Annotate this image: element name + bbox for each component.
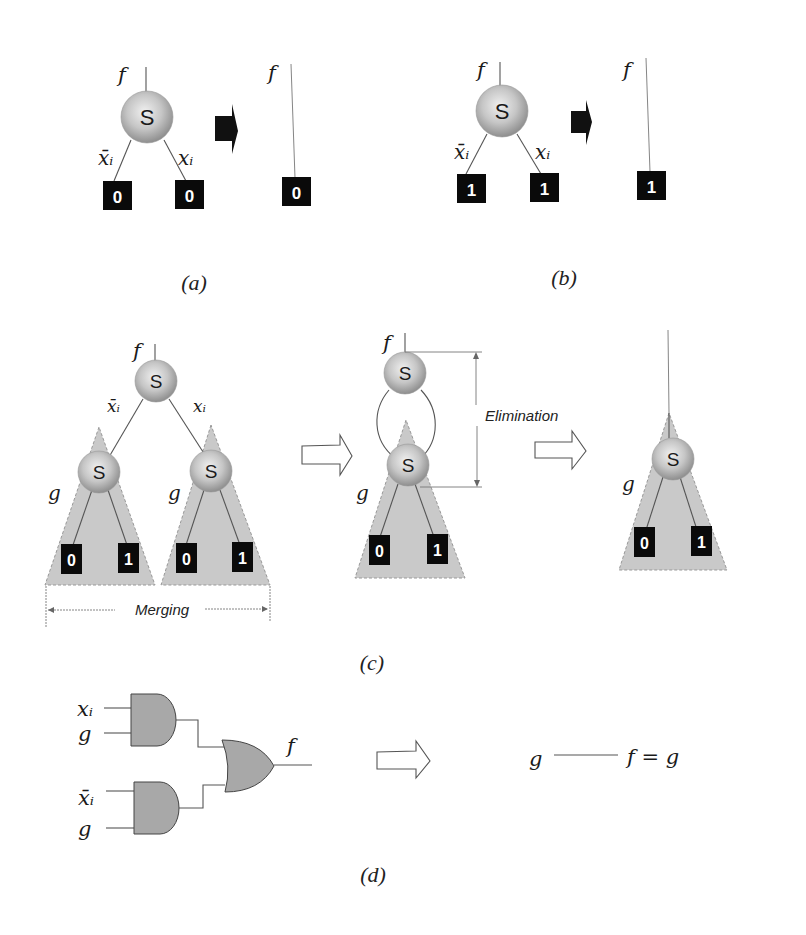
- leaf-right: 0: [175, 180, 204, 209]
- svg-text:0: 0: [185, 187, 194, 206]
- leaf-0: 0: [61, 544, 82, 574]
- hollow-arrow-icon: [302, 435, 352, 475]
- root-label-f: f: [475, 58, 488, 82]
- subtree-node: S: [652, 438, 694, 480]
- panel-d: xᵢ g x̄ᵢ g f g f = g (d): [77, 694, 679, 887]
- root-node: S: [135, 360, 177, 402]
- and-gate-2: [134, 782, 179, 834]
- svg-text:0: 0: [292, 184, 301, 203]
- leaf-1: 1: [691, 526, 712, 556]
- caption-b: (b): [551, 265, 577, 290]
- subtree-node-right: S: [190, 450, 232, 492]
- eliminated-node: S: [384, 352, 426, 394]
- svg-text:0: 0: [640, 535, 649, 552]
- hollow-arrow-icon: [377, 741, 430, 778]
- decision-node: S: [476, 85, 528, 137]
- svg-text:0: 0: [67, 552, 76, 569]
- and-gate-1: [131, 694, 176, 746]
- edge-label-not-xi: x̄ᵢ: [454, 140, 469, 164]
- gate2-input-g: g: [78, 817, 91, 841]
- edge-label-not-xi: x̄ᵢ: [98, 146, 113, 170]
- result-label-f: f: [621, 58, 634, 82]
- svg-text:S: S: [140, 105, 155, 130]
- result-expression: f = g: [625, 745, 679, 769]
- subtree-label-g: g: [356, 481, 369, 505]
- svg-text:0: 0: [375, 543, 384, 560]
- root-label-f: f: [131, 339, 144, 363]
- result-leaf: 1: [637, 171, 666, 200]
- root-label-f: f: [381, 331, 394, 355]
- gate1-input-g: g: [78, 722, 91, 746]
- svg-text:S: S: [150, 371, 163, 392]
- edge-label-xi: xᵢ: [193, 396, 206, 416]
- svg-text:S: S: [93, 462, 106, 483]
- elimination-label: Elimination: [485, 407, 558, 424]
- svg-text:S: S: [667, 449, 680, 470]
- edge-label-xi: xᵢ: [535, 140, 550, 164]
- decision-node: S: [121, 91, 173, 143]
- svg-text:S: S: [205, 461, 218, 482]
- svg-text:1: 1: [467, 181, 476, 200]
- leaf-1: 1: [118, 543, 139, 573]
- edge-label-not-xi: x̄ᵢ: [107, 396, 120, 416]
- svg-text:1: 1: [433, 542, 442, 559]
- leaf-left: 1: [457, 174, 486, 203]
- svg-text:1: 1: [238, 550, 247, 567]
- svg-text:1: 1: [647, 178, 656, 197]
- panel-a: f S x̄ᵢ xᵢ 0 0 f 0 (a): [98, 61, 311, 295]
- result-label-f: f: [266, 61, 279, 85]
- caption-c: (c): [360, 650, 384, 675]
- caption-a: (a): [181, 270, 207, 295]
- subtree-node: S: [387, 444, 429, 486]
- svg-text:S: S: [495, 99, 510, 124]
- svg-text:1: 1: [697, 534, 706, 551]
- gate2-input-not-xi: x̄ᵢ: [78, 786, 94, 810]
- leaf-left: 0: [103, 181, 132, 210]
- caption-d: (d): [360, 862, 386, 887]
- leaf-1: 1: [232, 542, 253, 572]
- result-input-g: g: [529, 747, 542, 771]
- panel-c: f S x̄ᵢ xᵢ S g 0 1 S: [45, 330, 727, 675]
- or-gate: [222, 740, 274, 792]
- leaf-1: 1: [427, 534, 448, 564]
- leaf-right: 1: [530, 173, 559, 202]
- output-label-f: f: [285, 734, 298, 758]
- leaf-0: 0: [634, 527, 655, 557]
- subtree-label-g: g: [622, 472, 635, 496]
- panel-b: f S x̄ᵢ xᵢ 1 1 f 1 (b): [454, 58, 666, 290]
- result-leaf: 0: [282, 177, 311, 206]
- svg-text:S: S: [399, 363, 412, 384]
- merging-label: Merging: [135, 601, 190, 618]
- root-label-f: f: [116, 63, 129, 87]
- solid-arrow-icon: [571, 100, 592, 145]
- subtree-label-g: g: [48, 481, 61, 505]
- svg-text:S: S: [402, 455, 415, 476]
- subtree-label-g: g: [168, 481, 181, 505]
- svg-text:1: 1: [124, 551, 133, 568]
- svg-text:0: 0: [113, 188, 122, 207]
- solid-arrow-icon: [215, 104, 238, 154]
- leaf-0: 0: [176, 543, 197, 573]
- leaf-0: 0: [369, 535, 390, 565]
- subtree-node-left: S: [78, 451, 120, 493]
- hollow-arrow-icon: [535, 431, 586, 469]
- gate1-input-xi: xᵢ: [77, 697, 93, 721]
- edge-left: [114, 140, 131, 181]
- svg-text:1: 1: [540, 180, 549, 199]
- edge-label-xi: xᵢ: [178, 146, 193, 170]
- svg-text:0: 0: [182, 551, 191, 568]
